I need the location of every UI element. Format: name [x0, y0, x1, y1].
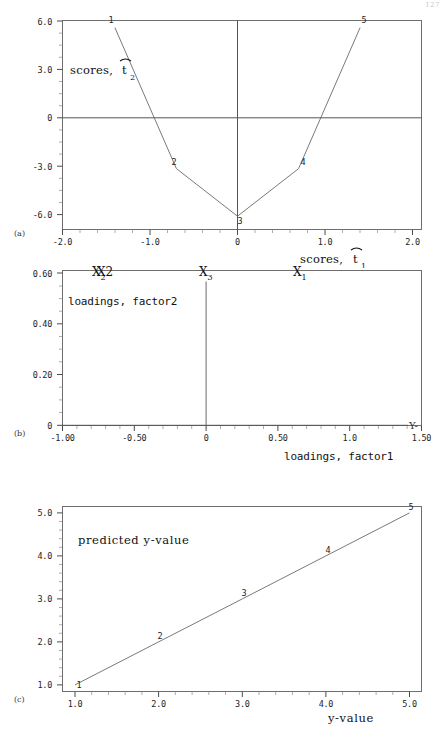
panel-a-point-label-1: 1	[108, 15, 113, 25]
panel-a-point-label-2: 2	[171, 157, 176, 167]
panel-c-xtick-2: 3.0	[235, 699, 250, 709]
panel-b-label-x1: X1	[293, 265, 307, 282]
panel-c-ytick-4: 5.0	[38, 508, 53, 518]
panel-a-frame	[63, 21, 422, 230]
panel-b-loadings-plot: 0.60 0.40 0.20 0	[0, 262, 448, 492]
panel-c-point-label-1: 1	[76, 680, 81, 690]
panel-b-x-axis: -1.00 -0.50 0 0.50 1.0 1.50	[50, 426, 431, 444]
panel-c-xtick-4: 5.0	[402, 699, 417, 709]
panel-a-y-axis: 6.0 3.0 0 -3.0 -6.0	[33, 17, 63, 221]
panel-a-xtick-3: 1.0	[318, 237, 333, 247]
panel-b-xlabel: loadings, factor1	[284, 450, 393, 463]
panel-a-point-label-5: 5	[361, 15, 366, 25]
panel-c-y-axis: 5.0 4.0 3.0 2.0 1.0	[38, 508, 63, 690]
panel-c-ytick-2: 3.0	[38, 594, 53, 604]
panel-a-xlabel-hat-icon	[351, 248, 362, 250]
panel-c-xtick-1: 2.0	[151, 699, 166, 709]
panel-b-xtick-1: -0.50	[122, 433, 146, 443]
panel-b-frame	[63, 271, 422, 426]
panel-c-xlabel: y-value	[327, 711, 374, 725]
panel-b-ytick-0: 0.60	[33, 269, 52, 279]
panel-c-point-label-4: 4	[325, 545, 330, 555]
panel-c-predicted-plot: 5.0 4.0 3.0 2.0 1.0	[0, 486, 448, 749]
panel-a-xtick-0: -2.0	[53, 237, 72, 247]
panel-b-tag: (b)	[14, 429, 25, 438]
panel-c-x-axis: 1.0 2.0 3.0 4.0 5.0	[68, 692, 417, 710]
panel-b-label-y: Y-	[408, 420, 418, 431]
panel-b-xtick-2: 0	[204, 433, 209, 443]
panel-b-xtick-4: 1.0	[342, 433, 357, 443]
panel-b-ylabel: loadings, factor2	[68, 295, 177, 308]
panel-c-xtick-0: 1.0	[68, 699, 83, 709]
panel-b-xtick-0: -1.00	[50, 433, 74, 443]
panel-c-point-label-5: 5	[408, 502, 413, 512]
panel-a-ylabel-group: scores, t 2	[70, 59, 135, 82]
panel-a-ylabel-text: scores,	[70, 63, 113, 77]
panel-a-ytick-1: 3.0	[38, 65, 53, 75]
panel-b-ytick-2: 0.20	[33, 370, 52, 380]
panel-c-ytick-0: 1.0	[38, 680, 53, 690]
panel-b-ytick-3: 0	[47, 421, 52, 431]
panel-a-scores-plot: 6.0 3.0 0 -3.0 -6.0	[0, 8, 448, 268]
panel-b-y-axis: 0.60 0.40 0.20 0	[33, 269, 63, 431]
panel-b-label-x3: X3	[199, 265, 213, 282]
panel-c-ylabel: predicted y-value	[78, 533, 189, 547]
panel-c-xtick-3: 4.0	[319, 699, 334, 709]
panel-a-tag: (a)	[14, 229, 25, 238]
panel-b-xtick-5: 1.50	[412, 433, 431, 443]
panel-a-ytick-3: -3.0	[33, 162, 52, 172]
panel-a-x-axis: -2.0 -1.0 0 1.0 2.0	[53, 230, 420, 248]
panel-b-xtick-3: 0.50	[268, 433, 287, 443]
panel-c-tag: (c)	[14, 695, 25, 704]
panel-a-point-label-3: 3	[237, 216, 242, 226]
panel-c-point-label-3: 3	[241, 588, 246, 598]
panel-c-ytick-1: 2.0	[38, 637, 53, 647]
panel-a-ylabel-sub: 2	[130, 73, 135, 82]
panel-a-xtick-4: 2.0	[405, 237, 420, 247]
panel-a-xtick-1: -1.0	[140, 237, 159, 247]
panel-a-ytick-4: -6.0	[33, 210, 52, 220]
panel-a-ytick-2: 0	[47, 113, 52, 123]
panel-b-ytick-1: 0.40	[33, 319, 52, 329]
panel-c-ytick-3: 4.0	[38, 551, 53, 561]
panel-a-point-label-4: 4	[300, 157, 305, 167]
panel-c-point-label-2: 2	[157, 631, 162, 641]
panel-a-ylabel-symbol: t	[122, 63, 127, 77]
panel-a-ytick-0: 6.0	[38, 17, 53, 27]
panel-a-xtick-2: 0	[235, 237, 240, 247]
